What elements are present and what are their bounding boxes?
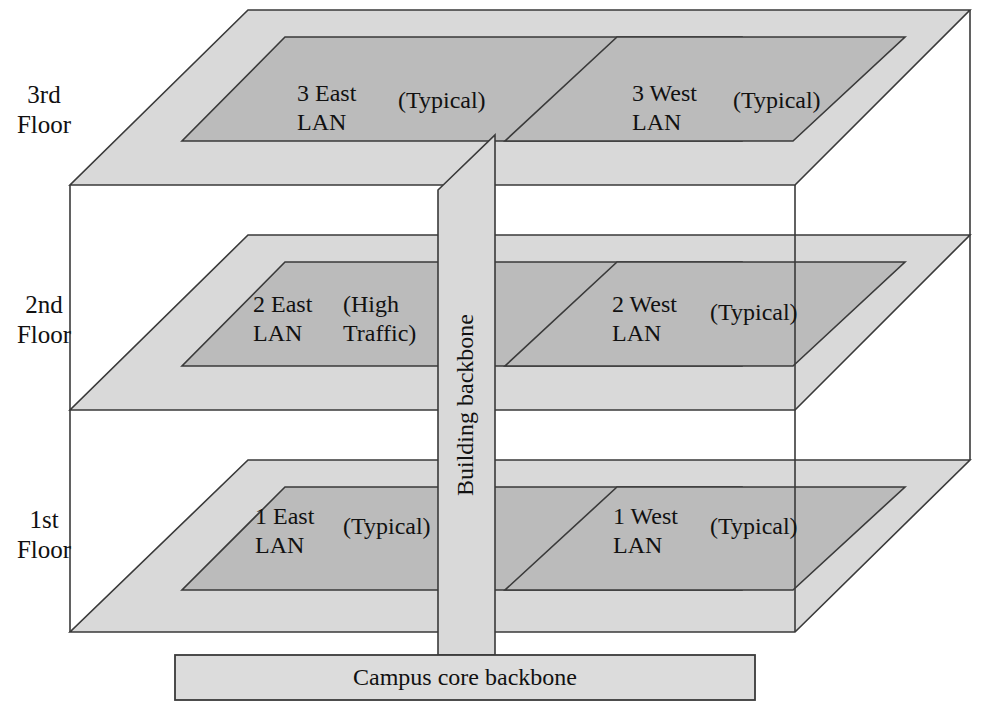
floor-label-3rd: 3rd Floor (17, 81, 72, 138)
floor-label-1st: 1st Floor (17, 506, 72, 563)
lan-3-east-name-line2: LAN (297, 109, 346, 135)
lan-1-east-note-line1: (Typical) (343, 513, 431, 539)
floor-label-2nd-line1: 2nd (25, 291, 63, 318)
floor-label-2nd-line2: Floor (17, 321, 72, 348)
lan-1-east-name-line2: LAN (255, 532, 304, 558)
floor-label-1st-line1: 1st (29, 506, 58, 533)
lan-3-west-note-line1: (Typical) (733, 87, 821, 113)
campus-core-backbone: Campus core backbone (175, 655, 755, 700)
building-isometric-svg: Building backbone Campus core backbone 3… (0, 0, 981, 728)
lan-2-west-note-line1: (Typical) (710, 299, 798, 325)
lan-2-west-name-line2: LAN (612, 320, 661, 346)
lan-2-east-note-line1: (High (343, 291, 399, 317)
building-backbone-column: Building backbone (438, 135, 495, 655)
lan-2-east-name-line2: LAN (253, 320, 302, 346)
floor-label-3rd-line2: Floor (17, 111, 72, 138)
lan-3-east-note-line1: (Typical) (398, 87, 486, 113)
lan-3-west-name-line1: 3 West (632, 80, 697, 106)
campus-core-backbone-label: Campus core backbone (353, 664, 577, 690)
floor-label-3rd-line1: 3rd (27, 81, 61, 108)
lan-1-west-name-line2: LAN (613, 532, 662, 558)
lan-2-east-name-line1: 2 East (253, 291, 313, 317)
lan-1-west-name-line1: 1 West (613, 503, 678, 529)
lan-3-east-name-line1: 3 East (297, 80, 357, 106)
lan-2-west-name-line1: 2 West (612, 291, 677, 317)
building-backbone-label: Building backbone (452, 314, 478, 496)
floor-slab-3rd (70, 10, 970, 185)
floor-slab-2nd (70, 235, 970, 410)
lan-1-east-name-line1: 1 East (255, 503, 315, 529)
lan-2-east-note-line2: Traffic) (343, 320, 416, 346)
floor-slab-1st (70, 460, 970, 632)
network-building-diagram: Building backbone Campus core backbone 3… (0, 0, 981, 728)
floor-label-2nd: 2nd Floor (17, 291, 72, 348)
floor-label-1st-line2: Floor (17, 536, 72, 563)
lan-1-west-note-line1: (Typical) (710, 513, 798, 539)
lan-3-west-name-line2: LAN (632, 109, 681, 135)
